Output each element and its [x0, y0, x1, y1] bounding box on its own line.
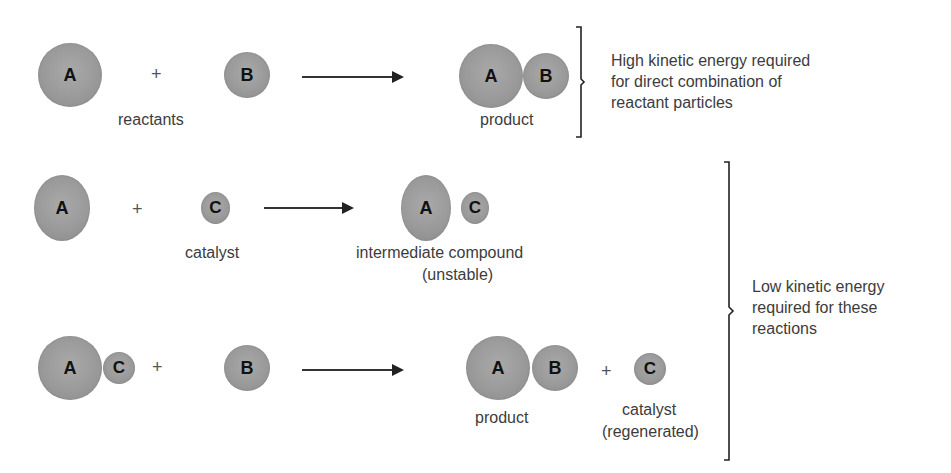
- reaction-arrow: [302, 76, 402, 78]
- reaction-arrow: [264, 207, 352, 209]
- product-label: product: [480, 111, 533, 129]
- sphere-a: A: [38, 43, 102, 107]
- reactants-label: reactants: [118, 111, 184, 129]
- bracket-high-energy: [574, 26, 590, 138]
- product-label: product: [475, 409, 528, 427]
- low-energy-note: Low kinetic energy required for these re…: [752, 276, 885, 339]
- catalyst-sphere-c: C: [201, 192, 230, 224]
- catalyst-label: catalyst: [185, 244, 239, 262]
- product-sphere-b: B: [532, 345, 578, 391]
- catalyst-label: catalyst: [622, 401, 676, 419]
- regenerated-label: (regenerated): [602, 423, 699, 441]
- regenerated-catalyst-sphere-c: C: [634, 353, 666, 385]
- plus-sign: +: [132, 199, 143, 220]
- product-sphere-a: A: [466, 336, 530, 400]
- sphere-b: B: [224, 345, 270, 391]
- sphere-b: B: [224, 52, 270, 98]
- bracket-low-energy: [722, 161, 738, 461]
- product-sphere-b: B: [523, 53, 569, 99]
- high-energy-note: High kinetic energy required for direct …: [611, 50, 810, 113]
- complex-sphere-a: A: [38, 336, 102, 400]
- product-sphere-a: A: [459, 44, 523, 108]
- reaction-arrow: [302, 369, 402, 371]
- plus-sign: +: [151, 64, 162, 85]
- sphere-a: A: [34, 175, 90, 241]
- plus-sign: +: [601, 361, 612, 382]
- intermediate-label: intermediate compound: [356, 244, 523, 262]
- unstable-label: (unstable): [422, 266, 493, 284]
- complex-sphere-c: C: [103, 352, 135, 384]
- plus-sign: +: [152, 357, 163, 378]
- intermediate-sphere-c: C: [461, 192, 489, 224]
- intermediate-sphere-a: A: [401, 175, 451, 241]
